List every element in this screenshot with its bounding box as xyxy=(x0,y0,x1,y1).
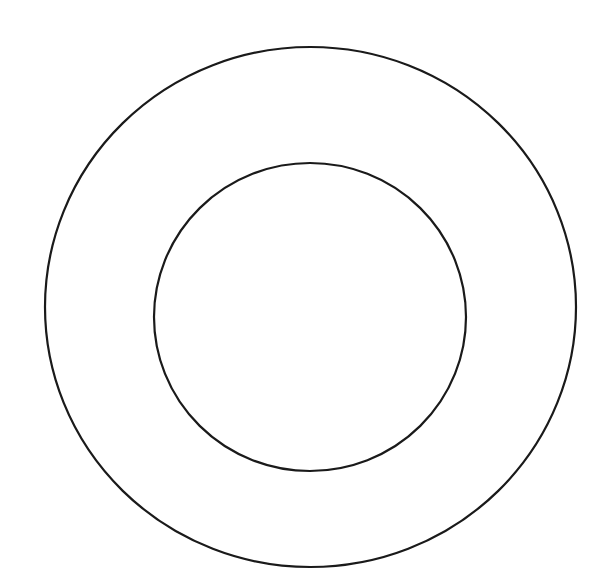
background xyxy=(0,0,613,588)
diagram-canvas xyxy=(0,0,613,588)
